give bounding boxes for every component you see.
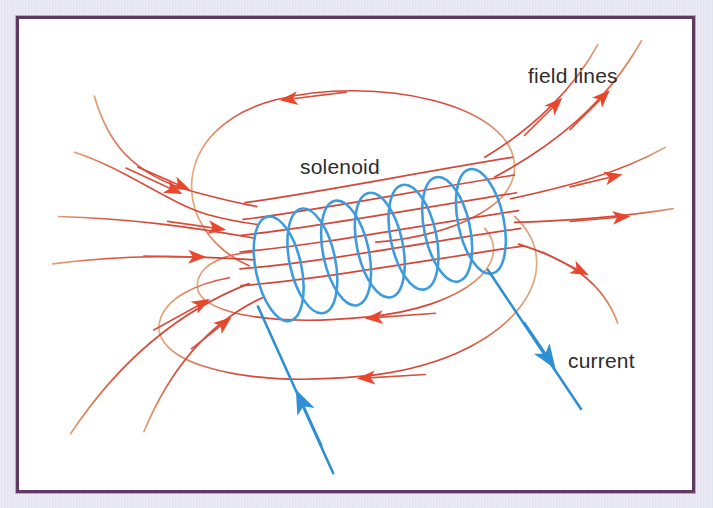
figure-root: field lines solenoid current (0, 0, 713, 508)
current-lead-in (258, 306, 333, 473)
field-line-right-1 (485, 45, 598, 158)
coil-turn-1 (245, 212, 312, 326)
coil-turn-7 (447, 165, 514, 279)
field-line-left-2 (75, 152, 257, 224)
solenoid-coil (245, 165, 514, 326)
field-line-right-4 (515, 209, 674, 223)
field-line-left-4-arrow (144, 256, 203, 257)
label-field-lines: field lines (528, 64, 618, 88)
figure-frame: field lines solenoid current (16, 16, 695, 493)
current-lead-in-arrow (298, 393, 322, 445)
field-line-right-2-arrow (570, 92, 608, 130)
field-line-interior-4 (240, 211, 519, 252)
field-lines-interior (240, 157, 522, 285)
field-lines-left (53, 96, 263, 434)
solenoid-field-diagram (19, 19, 692, 490)
field-line-interior-5 (240, 228, 520, 268)
field-line-left-5 (71, 284, 249, 434)
label-solenoid: solenoid (300, 155, 380, 179)
field-line-loop-lower-inner (197, 228, 493, 320)
field-line-right-5-arrow (542, 252, 586, 274)
field-line-right-2 (495, 41, 642, 177)
field-line-interior-6 (241, 246, 522, 285)
field-line-left-1 (94, 96, 257, 207)
label-current: current (568, 349, 635, 373)
field-line-left-6-arrow (191, 319, 229, 349)
current-leads (258, 270, 581, 473)
field-line-left-4 (53, 257, 255, 264)
coil-turn-3 (313, 196, 380, 310)
field-line-right-3 (511, 147, 666, 198)
field-line-right-1-arrow (524, 100, 560, 136)
coil-turn-4 (346, 188, 413, 302)
current-lead-out-arrow (524, 323, 553, 365)
